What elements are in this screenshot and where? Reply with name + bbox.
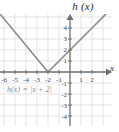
x-tick-label: 1	[79, 76, 83, 84]
x-tick-label: -4	[23, 76, 29, 84]
x-tick-label: -6	[1, 76, 7, 84]
function-title-label: h (x)	[60, 0, 106, 13]
x-axis-tick-labels: -6 -5 -4 -3 -2 -1 1 2	[1, 76, 94, 84]
x-tick-label: -2	[45, 76, 51, 84]
absolute-value-graph-figure: h (x)	[0, 0, 119, 132]
y-tick-label: -2	[61, 91, 67, 99]
x-axis	[0, 68, 112, 75]
coordinate-plane-svg: -6 -5 -4 -3 -2 -1 1 2 4 3 2 1 -1 -2 -3 -…	[0, 14, 112, 126]
plot-area: -6 -5 -4 -3 -2 -1 1 2 4 3 2 1 -1 -2 -3 -…	[0, 14, 112, 126]
y-tick-label: 2	[64, 46, 68, 54]
x-tick-label: 2	[90, 76, 94, 84]
y-tick-label: 4	[64, 24, 68, 32]
x-axis-label: x	[110, 63, 114, 73]
y-tick-label: 1	[64, 57, 68, 65]
x-tick-label: -3	[34, 76, 40, 84]
y-tick-label: -1	[61, 80, 67, 88]
y-axis	[66, 14, 73, 126]
function-equation-label: h(x) = |x + 2|	[7, 85, 52, 94]
x-tick-label: -5	[12, 76, 18, 84]
y-tick-label: -3	[61, 102, 67, 110]
y-tick-label: 3	[64, 35, 68, 43]
y-tick-label: -4	[61, 113, 67, 121]
grid-lines	[0, 14, 112, 126]
